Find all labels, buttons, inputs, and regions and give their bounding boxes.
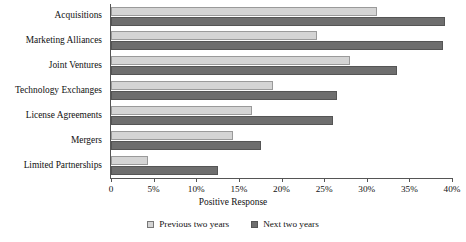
chart-legend: Previous two yearsNext two years [0,219,466,229]
category-label: License Agreements [0,110,102,121]
axis-tick [111,178,112,182]
axis-tick-labels: 05%10%15%20%25%30%35%40% [0,183,466,196]
bar-group [111,7,452,29]
axis-tick-label: 20% [262,183,302,195]
plot-area [111,4,452,178]
axis-tick [409,178,410,182]
category-axis: AcquisitionsMarketing AlliancesJoint Ven… [0,4,106,178]
bar-next-two-years [111,141,261,150]
bar-previous-two-years [111,31,317,40]
axis-tick-label: 25% [304,183,344,195]
axis-tick-label: 15% [219,183,259,195]
axis-tick [452,178,453,182]
axis-tick-label: 10% [176,183,216,195]
legend-label: Next two years [263,219,319,229]
legend-item[interactable]: Next two years [251,219,319,229]
bar-previous-two-years [111,81,273,90]
axis-tick [239,178,240,182]
bar-previous-two-years [111,156,148,165]
axis-tick-label: 40% [432,183,466,195]
bar-previous-two-years [111,131,233,140]
bar-previous-two-years [111,106,252,115]
bar-chart: AcquisitionsMarketing AlliancesJoint Ven… [0,0,466,242]
x-axis-title: Positive Response [0,197,466,207]
bar-previous-two-years [111,7,377,16]
bar-next-two-years [111,41,443,50]
bar-next-two-years [111,166,218,175]
bar-group [111,156,452,178]
bar-group [111,81,452,103]
axis-tick [154,178,155,182]
bar-previous-two-years [111,56,350,65]
category-label: Mergers [0,135,102,146]
bar-next-two-years [111,116,333,125]
category-label: Joint Ventures [0,60,102,71]
category-label: Technology Exchanges [0,85,102,96]
axis-tick-label: 0 [91,183,131,195]
bar-next-two-years [111,91,337,100]
category-label: Limited Partnerships [0,160,102,171]
legend-swatch-icon [251,221,258,228]
bar-group [111,106,452,128]
axis-tick [196,178,197,182]
axis-tick-label: 35% [389,183,429,195]
axis-tick-label: 5% [134,183,174,195]
axis-tick [282,178,283,182]
legend-item[interactable]: Previous two years [147,219,229,229]
category-label: Acquisitions [0,10,102,21]
legend-swatch-icon [147,221,154,228]
bar-group [111,56,452,78]
bar-next-two-years [111,66,397,75]
bar-group [111,131,452,153]
legend-label: Previous two years [159,219,229,229]
bar-next-two-years [111,17,445,26]
category-label: Marketing Alliances [0,35,102,46]
axis-tick [367,178,368,182]
axis-tick-label: 30% [347,183,387,195]
bar-group [111,31,452,53]
axis-tick [324,178,325,182]
